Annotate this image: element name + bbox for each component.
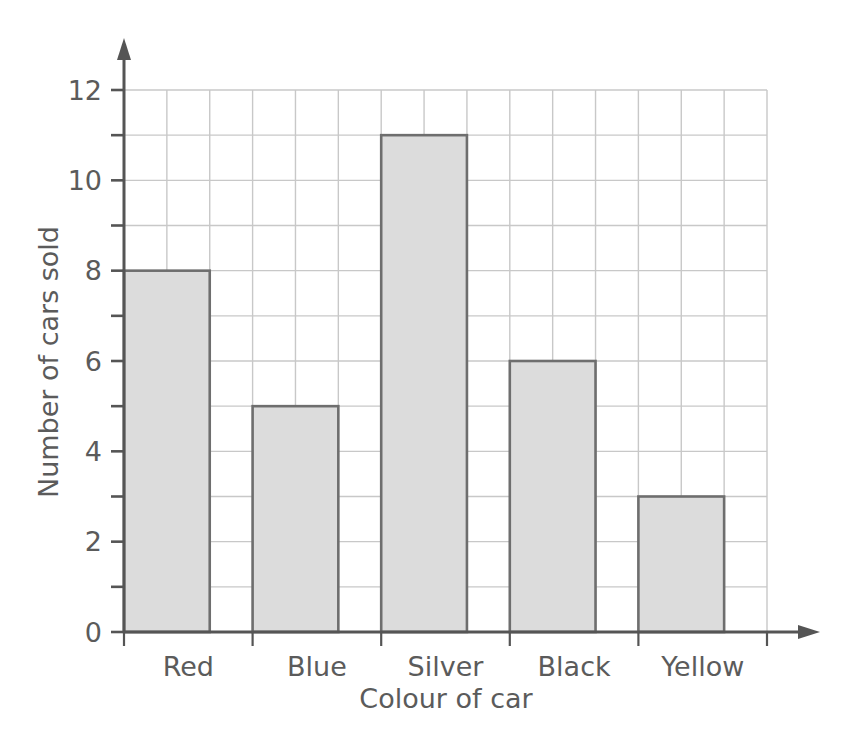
x-axis-arrow-icon [798,625,820,639]
bar-chart-figure: 024681012 RedBlueSilverBlackYellow Colou… [0,0,842,744]
x-axis-label-blue: Blue [287,651,347,682]
x-axis-label-silver: Silver [408,651,485,682]
bar-black [510,361,596,632]
bars-group [124,135,724,632]
bar-red [124,271,210,632]
x-axis-tick-marks [124,632,767,646]
y-axis-tick-label: 0 [85,617,102,648]
y-axis-tick-label: 10 [68,165,102,196]
bar-blue [253,406,339,632]
y-axis-tick-labels: 024681012 [68,75,102,648]
bar-silver [381,135,467,632]
x-axis-title: Colour of car [359,683,533,714]
y-axis-tick-label: 2 [85,526,102,557]
y-axis-tick-label: 8 [85,255,102,286]
y-axis-tick-label: 12 [68,75,102,106]
y-axis-title: Number of cars sold [33,226,64,498]
x-axis-label-black: Black [538,651,611,682]
x-axis-category-labels: RedBlueSilverBlackYellow [163,651,745,682]
chart-canvas: 024681012 RedBlueSilverBlackYellow Colou… [0,0,842,744]
y-axis-tick-label: 4 [85,436,102,467]
x-axis-label-red: Red [163,651,214,682]
bar-yellow [638,497,724,633]
y-axis-tick-label: 6 [85,346,102,377]
y-axis-tick-marks [111,90,124,632]
x-axis-label-yellow: Yellow [660,651,744,682]
y-axis-arrow-icon [117,38,131,60]
